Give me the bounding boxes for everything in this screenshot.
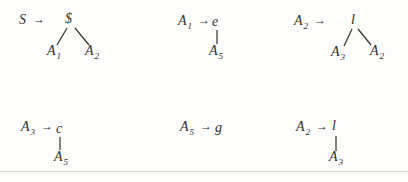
nonterminal-symbol: A [180, 119, 189, 134]
production-1-tree-root: $ [65, 12, 72, 26]
nonterminal-subscript: 3 [339, 157, 344, 167]
nonterminal-symbol: A [296, 119, 305, 134]
production-3-tree-root: l [351, 13, 355, 27]
nonterminal-subscript: 2 [306, 127, 311, 137]
nonterminal-symbol: A [294, 13, 303, 28]
nonterminal-subscript: 2 [304, 21, 309, 31]
nonterminal-symbol: A [54, 149, 63, 164]
production-2-tree-child: A5 [209, 44, 223, 58]
production-2-tree-root: e [212, 15, 218, 29]
production-3-tree-child: A3 [331, 45, 345, 59]
nonterminal-symbol: A [331, 44, 340, 59]
production-1-tree-child: A2 [85, 44, 99, 58]
nonterminal-subscript: 3 [341, 52, 346, 62]
nonterminal-subscript: 5 [64, 157, 69, 167]
production-arrow: → [41, 119, 53, 133]
production-6-tree-root: l [332, 119, 336, 133]
page-bottom-rule [0, 171, 408, 172]
production-2-lhs: A1→ [178, 14, 210, 28]
production-arrow: → [314, 13, 326, 27]
production-5-tree-root: g [215, 121, 222, 135]
tree-grammar-productions-figure: S→ $ A1 A2 A1→ e A5 A2→ l A3 A2 A3→ c A5… [0, 0, 408, 182]
production-1-tree-child: A1 [47, 44, 61, 58]
production-4-tree-child: A5 [54, 150, 68, 164]
nonterminal-symbol: A [85, 43, 94, 58]
nonterminal-subscript: 5 [219, 51, 224, 61]
nonterminal-symbol: A [178, 13, 187, 28]
production-4-tree-root: c [56, 122, 62, 136]
nonterminal-subscript: 3 [31, 127, 36, 137]
production-6-lhs: A2→ [296, 120, 328, 134]
production-arrow: → [33, 12, 45, 26]
production-3-tree-child: A2 [370, 44, 384, 58]
production-arrow: → [198, 13, 210, 27]
tree-edge [57, 28, 67, 45]
production-arrow: → [316, 119, 328, 133]
nonterminal-symbol: A [329, 149, 338, 164]
production-3-lhs: A2→ [294, 14, 326, 28]
nonterminal-symbol: A [47, 43, 56, 58]
production-1-lhs: S→ [19, 13, 45, 27]
production-6-tree-child: A3 [329, 150, 343, 164]
production-4-lhs: A3→ [21, 120, 53, 134]
nonterminal-subscript: 1 [188, 21, 193, 31]
production-arrow: → [200, 119, 212, 133]
nonterminal-symbol: A [209, 43, 218, 58]
nonterminal-symbol: S [19, 12, 26, 27]
nonterminal-subscript: 5 [190, 127, 195, 137]
tree-edge [344, 29, 352, 46]
nonterminal-subscript: 2 [380, 51, 385, 61]
nonterminal-symbol: A [370, 43, 379, 58]
nonterminal-subscript: 1 [57, 51, 62, 61]
production-5-lhs: A5→ [180, 120, 212, 134]
nonterminal-subscript: 2 [95, 51, 100, 61]
nonterminal-symbol: A [21, 119, 30, 134]
